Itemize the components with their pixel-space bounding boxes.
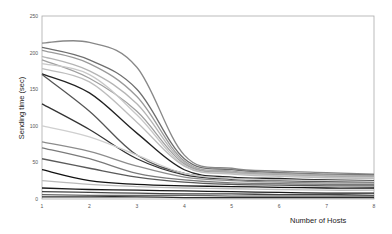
y-tick-label: 0: [35, 196, 38, 202]
x-tick-label: 2: [88, 203, 91, 209]
series-line-s20: [42, 197, 374, 198]
series-lines: [42, 41, 374, 198]
series-line-s4: [42, 56, 374, 176]
series-line-s8: [42, 74, 374, 181]
y-axis-ticks: 050100150200250: [30, 13, 39, 202]
series-line-s7: [42, 69, 374, 179]
series-line-s6: [42, 64, 374, 178]
x-tick-label: 5: [230, 203, 233, 209]
y-tick-label: 100: [30, 123, 39, 129]
x-axis-ticks: 12345678: [41, 203, 376, 209]
x-tick-label: 6: [278, 203, 281, 209]
x-tick-label: 7: [325, 203, 328, 209]
y-tick-label: 200: [30, 50, 39, 56]
x-tick-label: 1: [41, 203, 44, 209]
series-line-s2: [42, 47, 374, 174]
x-tick-label: 3: [135, 203, 138, 209]
y-tick-label: 150: [30, 86, 39, 92]
series-line-s9: [42, 75, 374, 182]
line-chart: 050100150200250 12345678 Number of Hosts…: [0, 0, 392, 234]
y-tick-label: 50: [32, 159, 38, 165]
y-axis-label: Sending time (sec): [17, 76, 26, 139]
y-tick-label: 250: [30, 13, 39, 19]
x-tick-label: 8: [373, 203, 376, 209]
x-axis-label: Number of Hosts: [290, 216, 347, 225]
x-tick-label: 4: [183, 203, 186, 209]
